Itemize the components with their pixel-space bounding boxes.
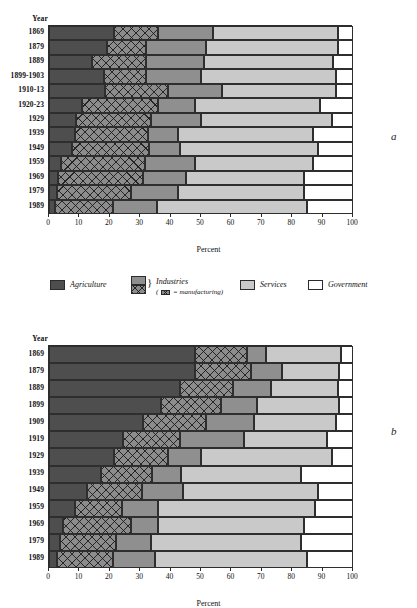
- x-axis-tick-label: 100: [346, 218, 357, 227]
- legend-swatch-services: [240, 280, 255, 290]
- bar-row: [49, 534, 353, 551]
- chart-panel-a: Year Percent a 1869187918891899-19031910…: [0, 0, 417, 262]
- x-axis-tick: [352, 213, 353, 217]
- x-axis-tick: [109, 567, 110, 571]
- bar-segment-manufacturing: [57, 185, 131, 199]
- bar-segment-agriculture: [49, 483, 87, 500]
- bar-segment-manufacturing: [195, 346, 247, 363]
- bar-segment-agriculture: [49, 185, 57, 199]
- bar-segment-other-industries: [158, 98, 194, 112]
- bar-segment-agriculture: [49, 380, 180, 397]
- x-axis-tick: [48, 567, 49, 571]
- bar-segment-services: [213, 26, 338, 40]
- bar-segment-other-industries: [146, 69, 201, 83]
- bar-segment-other-industries: [146, 40, 205, 54]
- x-axis-tick-label: 0: [46, 572, 50, 581]
- x-axis-tick: [322, 213, 323, 217]
- x-axis-tick-label: 50: [196, 218, 204, 227]
- year-label: 1910-13: [18, 85, 44, 94]
- chart-legend: Agriculture } Industries ( = manufacturi…: [0, 272, 417, 308]
- bar-row: [49, 431, 353, 448]
- bar-segment-services: [204, 55, 333, 69]
- bar-segment-agriculture: [49, 84, 105, 98]
- bar-segment-government: [307, 551, 353, 568]
- x-axis-tick-label: 70: [257, 572, 265, 581]
- x-axis-tick: [48, 213, 49, 217]
- legend-label-services: Services: [260, 280, 287, 289]
- bar-segment-other-industries: [131, 517, 158, 534]
- x-axis-tick-label: 90: [318, 218, 326, 227]
- bar-segment-manufacturing: [123, 431, 179, 448]
- bar-segment-other-industries: [116, 534, 151, 551]
- bar-segment-services: [178, 185, 304, 199]
- panel-a-x-axis-title: Percent: [0, 245, 417, 254]
- bar-segment-other-industries: [148, 127, 178, 141]
- bar-segment-government: [336, 84, 353, 98]
- bar-segment-manufacturing: [104, 69, 147, 83]
- bar-segment-government: [336, 69, 353, 83]
- bar-row: [49, 397, 353, 414]
- bar-segment-government: [339, 397, 353, 414]
- year-label: 1979: [29, 536, 44, 545]
- bar-row: [49, 40, 353, 54]
- year-label: 1869: [29, 349, 44, 358]
- x-axis-tick: [261, 567, 262, 571]
- bar-segment-manufacturing: [75, 127, 148, 141]
- x-axis-tick-label: 10: [75, 572, 83, 581]
- bar-segment-services: [180, 142, 318, 156]
- bar-segment-other-industries: [149, 142, 179, 156]
- bar-row: [49, 448, 353, 465]
- x-axis-tick-label: 0: [46, 218, 50, 227]
- x-axis-tick: [230, 213, 231, 217]
- bar-segment-services: [158, 517, 304, 534]
- bar-segment-manufacturing: [161, 397, 220, 414]
- legend-swatch-manufacturing: [131, 285, 146, 294]
- bar-row: [49, 380, 353, 397]
- bar-segment-government: [318, 483, 353, 500]
- bar-segment-other-industries: [152, 466, 181, 483]
- bar-segment-agriculture: [49, 363, 195, 380]
- x-axis-tick: [109, 213, 110, 217]
- bar-segment-manufacturing: [143, 414, 205, 431]
- bar-segment-manufacturing: [72, 142, 150, 156]
- x-axis-tick: [200, 213, 201, 217]
- bar-segment-other-industries: [247, 346, 267, 363]
- bar-segment-agriculture: [49, 346, 195, 363]
- legend-label-agriculture: Agriculture: [70, 280, 107, 289]
- bar-segment-agriculture: [49, 142, 72, 156]
- bar-segment-manufacturing: [75, 500, 122, 517]
- bar-segment-agriculture: [49, 431, 123, 448]
- year-label: 1989: [29, 553, 44, 562]
- bar-segment-government: [301, 534, 353, 551]
- bar-segment-agriculture: [49, 69, 104, 83]
- bar-segment-other-industries: [168, 448, 201, 465]
- bar-segment-other-industries: [151, 113, 201, 127]
- x-axis-tick-label: 80: [287, 572, 295, 581]
- bar-segment-government: [304, 517, 353, 534]
- bar-segment-government: [338, 40, 353, 54]
- bar-segment-other-industries: [113, 200, 157, 214]
- bar-segment-services: [206, 40, 338, 54]
- chart-panel-b: Year Percent b 1869187918891899190919191…: [0, 312, 417, 601]
- bar-row: [49, 69, 353, 83]
- x-axis-tick-label: 30: [135, 218, 143, 227]
- x-axis-tick: [230, 567, 231, 571]
- year-label: 1929: [29, 451, 44, 460]
- bar-segment-services: [151, 534, 301, 551]
- bar-segment-services: [183, 483, 318, 500]
- panel-a-year-header: Year: [10, 14, 48, 23]
- bar-segment-agriculture: [49, 534, 60, 551]
- bar-segment-other-industries: [122, 500, 158, 517]
- bar-row: [49, 517, 353, 534]
- bar-segment-government: [304, 185, 353, 199]
- bar-segment-manufacturing: [55, 200, 113, 214]
- bar-row: [49, 346, 353, 363]
- x-axis-tick: [170, 213, 171, 217]
- year-label: 1959: [29, 157, 44, 166]
- bar-row: [49, 171, 353, 185]
- bar-row: [49, 142, 353, 156]
- bar-segment-agriculture: [49, 517, 63, 534]
- bar-segment-services: [186, 171, 305, 185]
- year-label: 1909: [29, 417, 44, 426]
